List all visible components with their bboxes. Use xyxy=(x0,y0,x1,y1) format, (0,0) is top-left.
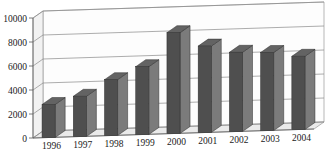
x-tick-label-2002: 2002 xyxy=(229,135,248,145)
bar-side-face xyxy=(180,26,190,134)
bar-2004[interactable] xyxy=(292,56,305,129)
bar-1996[interactable] xyxy=(42,105,55,138)
x-tick-label-2000: 2000 xyxy=(167,137,186,147)
bar-2003[interactable] xyxy=(261,53,274,131)
x-tick-label-2004: 2004 xyxy=(292,133,311,143)
bar-side-face xyxy=(274,46,284,131)
y-tick-label-2000: 2000 xyxy=(8,110,27,120)
bar-2002[interactable] xyxy=(229,52,242,131)
bar-side-face xyxy=(243,45,253,131)
y-tickmarks xyxy=(29,18,33,138)
x-tick-label-1999: 1999 xyxy=(136,138,155,148)
x-tick-label-1996: 1996 xyxy=(42,141,61,151)
bar-side-face xyxy=(86,89,96,136)
y-tick-label-0: 0 xyxy=(22,134,27,144)
bar-side-face xyxy=(118,73,128,136)
x-tick-label-1998: 1998 xyxy=(105,139,124,149)
chart-canvas: 10000 8000 6000 4000 2000 0 199619971998… xyxy=(0,0,331,150)
y-axis-labels: 10000 8000 6000 4000 2000 0 xyxy=(3,14,27,144)
plot-left-wall xyxy=(33,11,43,138)
bar-1997[interactable] xyxy=(73,96,86,136)
bar-2001[interactable] xyxy=(198,46,211,132)
bar-side-face xyxy=(149,60,159,135)
bar-1999[interactable] xyxy=(136,67,149,135)
x-tick-label-1997: 1997 xyxy=(73,140,92,150)
y-tick-label-10000: 10000 xyxy=(3,14,27,24)
bar-2000[interactable] xyxy=(167,33,180,134)
y-tick-label-8000: 8000 xyxy=(8,38,27,48)
y-tick-label-4000: 4000 xyxy=(8,86,27,96)
bar-side-face xyxy=(211,39,221,132)
bar-1998[interactable] xyxy=(104,80,117,136)
bar-side-face xyxy=(305,49,315,129)
x-tick-label-2001: 2001 xyxy=(198,136,217,146)
bar-chart: 10000 8000 6000 4000 2000 0 199619971998… xyxy=(0,0,331,150)
y-tick-label-6000: 6000 xyxy=(8,62,27,72)
x-tick-label-2003: 2003 xyxy=(261,134,280,144)
